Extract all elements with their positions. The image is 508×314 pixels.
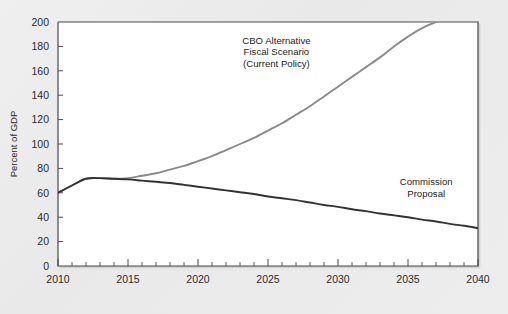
- commission-proposal-label: CommissionProposal: [400, 176, 453, 199]
- cbo-alternative-label-line: CBO Alternative: [242, 35, 310, 46]
- y-axis-title: Percent of GDP: [8, 111, 19, 178]
- commission-proposal-label-line: Commission: [400, 176, 453, 187]
- line-chart: 020406080100120140160180200 201020152020…: [0, 0, 508, 314]
- y-axis-tick-label: 80: [37, 162, 49, 174]
- cbo-alternative-label-line: Fiscal Scenario: [244, 46, 310, 57]
- y-axis-tick-label: 60: [37, 187, 49, 199]
- x-axis-tick-label: 2035: [396, 273, 420, 285]
- y-axis-tick-label: 180: [31, 40, 49, 52]
- cbo-alternative-label-line: (Current Policy): [243, 58, 310, 69]
- x-axis-tick-label: 2030: [326, 273, 350, 285]
- y-axis-tick-label: 160: [31, 65, 49, 77]
- y-axis-tick-label: 40: [37, 211, 49, 223]
- cbo-alternative-label: CBO AlternativeFiscal Scenario(Current P…: [242, 35, 310, 69]
- y-axis-tick-label: 200: [31, 16, 49, 28]
- x-axis-tick-label: 2010: [46, 273, 70, 285]
- commission-proposal-label-line: Proposal: [407, 188, 445, 199]
- y-axis-tick-label: 140: [31, 89, 49, 101]
- y-axis-tick-label: 20: [37, 235, 49, 247]
- y-axis-tick-label: 0: [43, 260, 49, 272]
- y-axis-tick-label: 100: [31, 138, 49, 150]
- x-axis-tick-label: 2020: [186, 273, 210, 285]
- y-axis-tick-label: 120: [31, 113, 49, 125]
- x-axis-tick-label: 2025: [256, 273, 280, 285]
- x-axis-tick-label: 2015: [116, 273, 140, 285]
- x-axis-tick-label: 2040: [466, 273, 490, 285]
- chart-container: 020406080100120140160180200 201020152020…: [0, 0, 508, 314]
